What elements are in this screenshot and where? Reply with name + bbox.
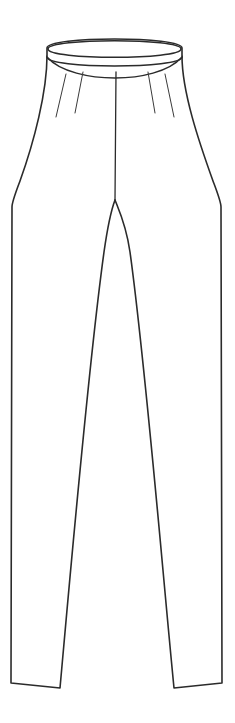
technical-flat-illustration: Technical Flat Sketch Women's Tapered Tr… — [0, 0, 235, 723]
trousers-technical-flat-svg — [0, 0, 235, 723]
waistband-top-rim — [48, 41, 181, 58]
